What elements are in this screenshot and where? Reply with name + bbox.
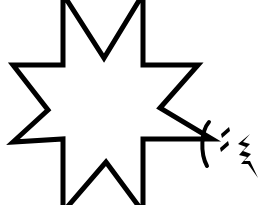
drawing-canvas	[0, 0, 278, 205]
star-drawing-svg	[0, 0, 278, 205]
